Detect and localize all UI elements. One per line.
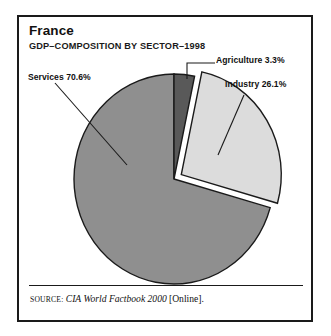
figure-panel: France GDP–COMPOSITION BY SECTOR–1998 Se…	[0, 0, 331, 336]
source-divider	[29, 285, 303, 286]
source-label: Source:	[30, 295, 63, 304]
pie-label-services: Services 70.6%	[28, 72, 91, 82]
pie-label-agriculture: Agriculture 3.3%	[216, 55, 285, 65]
source-work-title: CIA World Factbook 2000	[66, 293, 167, 304]
pie-slice-industry	[181, 72, 281, 203]
chart-frame: France GDP–COMPOSITION BY SECTOR–1998 Se…	[17, 15, 313, 322]
source-suffix: [Online].	[169, 293, 204, 304]
pie-label-industry: Industry 26.1%	[225, 79, 286, 89]
source-note: Source: CIA World Factbook 2000 [Online]…	[30, 293, 305, 304]
